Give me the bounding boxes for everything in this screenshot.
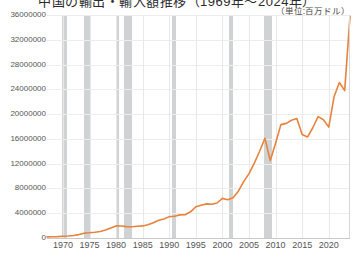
y-axis-tick-label: 36000000: [10, 11, 46, 19]
y-axis-tick-label: 28000000: [10, 61, 46, 69]
y-axis-tick-label: 20000000: [10, 110, 46, 118]
x-axis-baseline: [47, 238, 350, 239]
chart-container: 中国の輸出・輸入額推移（1969年～2024年） （単位:百万ドル） 04000…: [0, 0, 354, 260]
x-axis-tick-label: 1985: [133, 241, 153, 250]
plot-area: [47, 15, 350, 238]
y-axis-tick-label: 4000000: [15, 209, 46, 217]
y-axis-tick-label: 0: [42, 234, 46, 242]
x-axis-tick-label: 1995: [186, 241, 206, 250]
x-axis-tick-label: 1990: [159, 241, 179, 250]
x-axis-tick-label: 1980: [106, 241, 126, 250]
plot-right-border: [349, 15, 350, 238]
x-axis-tick-label: 2005: [239, 241, 259, 250]
y-axis-tick-label: 12000000: [10, 160, 46, 168]
x-axis-tick-label: 2015: [292, 241, 312, 250]
x-axis-tick-label: 2010: [266, 241, 286, 250]
y-axis-tick-label: 24000000: [10, 85, 46, 93]
x-axis-tick-label: 2020: [319, 241, 339, 250]
y-axis-tick-label: 16000000: [10, 135, 46, 143]
series-line-layer: [47, 15, 350, 238]
x-axis-tick-label: 1975: [80, 241, 100, 250]
y-axis-tick-label: 32000000: [10, 36, 46, 44]
series-line-world-trade: [47, 16, 350, 237]
x-axis-tick-label: 1970: [53, 241, 73, 250]
x-axis-tick-label: 2000: [212, 241, 232, 250]
y-axis-tick-label: 8000000: [15, 184, 46, 192]
